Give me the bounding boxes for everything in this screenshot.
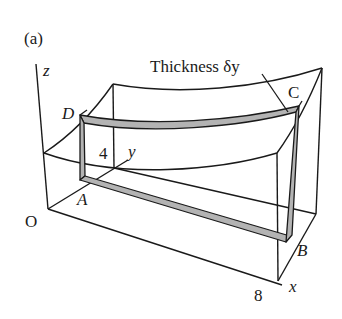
y-max-tick-label: 4 — [99, 145, 108, 162]
point-d-label: D — [62, 105, 74, 122]
x-axis-label: x — [289, 278, 297, 295]
panel-label: (a) — [24, 30, 43, 47]
thickness-label: Thickness δy — [150, 58, 240, 75]
point-b-label: B — [297, 242, 307, 259]
point-c-label: C — [288, 84, 299, 101]
z-axis — [36, 64, 48, 209]
slab-right-strip — [286, 106, 299, 242]
slab-left-strip — [80, 115, 85, 180]
solid-slab-diagram — [0, 0, 342, 319]
front-right-vertical — [277, 153, 278, 281]
y-axis-label: y — [128, 143, 136, 160]
point-a-label: A — [77, 191, 87, 208]
back-right-vertical — [316, 68, 322, 214]
front-top-curve — [44, 153, 277, 170]
x-max-tick-label: 8 — [254, 287, 263, 304]
x-axis — [48, 209, 282, 285]
slab — [80, 106, 299, 242]
z-axis-label: z — [43, 62, 50, 79]
slab-edge-d — [80, 110, 87, 115]
origin-label: O — [25, 213, 37, 230]
slab-edge-c — [299, 101, 302, 106]
slab-bottom-strip — [80, 176, 290, 242]
base-back-edge — [114, 168, 316, 214]
